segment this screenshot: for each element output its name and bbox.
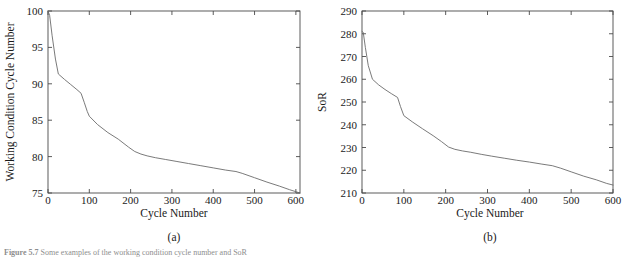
figure-caption: Figure 5.7 Some examples of the working … (4, 248, 620, 258)
x-axis-label-b: Cycle Number (456, 207, 524, 220)
plot-frame-a (48, 11, 300, 193)
y-tick-label: 80 (32, 151, 44, 163)
axis-ticks-b (362, 11, 613, 193)
x-tick-label: 600 (288, 194, 305, 206)
y-tick-label: 220 (341, 164, 358, 176)
x-tick-label: 100 (81, 194, 98, 206)
x-tick-label: 400 (205, 194, 222, 206)
x-tick-label: 0 (359, 194, 365, 206)
y-tick-label: 290 (341, 5, 358, 17)
y-tick-labels-b: 210220230240250260270280290 (341, 5, 358, 199)
y-tick-label: 90 (32, 78, 44, 90)
y-axis-label-b: SoR (316, 92, 328, 112)
figure-container: 0100200300400500600 7580859095100 Cycle … (0, 0, 625, 260)
chart-panel-b: 0100200300400500600 21022023024025026027… (310, 0, 625, 260)
data-line-sor (362, 31, 613, 185)
y-tick-label: 250 (341, 96, 358, 108)
y-tick-label: 210 (341, 187, 358, 199)
x-tick-label: 300 (479, 194, 496, 206)
y-tick-label: 280 (341, 28, 358, 40)
y-axis-label-a: Working Condition Cycle Number (4, 22, 17, 181)
y-tick-label: 85 (32, 114, 44, 126)
figure-caption-prefix: Figure 5.7 (4, 248, 39, 257)
x-tick-labels-a: 0100200300400500600 (45, 194, 304, 206)
x-tick-label: 500 (246, 194, 263, 206)
x-tick-label: 200 (437, 194, 454, 206)
figure-caption-text: Some examples of the working condition c… (41, 248, 247, 257)
data-line-working-condition-cycle-number (48, 11, 300, 193)
chart-svg-b: 0100200300400500600 21022023024025026027… (310, 0, 625, 260)
panel-label-a: (a) (168, 231, 181, 244)
axis-ticks-a (48, 11, 300, 193)
x-tick-label: 500 (563, 194, 580, 206)
y-tick-label: 270 (341, 51, 358, 63)
x-tick-label: 600 (605, 194, 622, 206)
y-tick-label: 75 (32, 187, 44, 199)
x-tick-label: 200 (122, 194, 139, 206)
plot-frame-b (362, 11, 613, 193)
x-tick-label: 400 (521, 194, 538, 206)
y-tick-label: 240 (341, 119, 358, 131)
x-tick-label: 100 (396, 194, 413, 206)
y-tick-label: 95 (32, 41, 44, 53)
y-tick-labels-a: 7580859095100 (27, 5, 44, 199)
x-tick-label: 0 (45, 194, 51, 206)
chart-panel-a: 0100200300400500600 7580859095100 Cycle … (0, 0, 315, 260)
y-tick-label: 230 (341, 142, 358, 154)
x-tick-label: 300 (164, 194, 181, 206)
y-tick-label: 100 (27, 5, 44, 17)
chart-svg-a: 0100200300400500600 7580859095100 Cycle … (0, 0, 315, 260)
x-tick-labels-b: 0100200300400500600 (359, 194, 622, 206)
y-tick-label: 260 (341, 73, 358, 85)
panel-label-b: (b) (483, 231, 497, 244)
x-axis-label-a: Cycle Number (140, 207, 208, 220)
